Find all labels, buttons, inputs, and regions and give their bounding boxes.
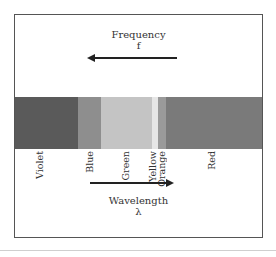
arrowhead-left-icon xyxy=(87,54,95,62)
wavelength-symbol: λ xyxy=(15,206,262,217)
band-label-red: Red xyxy=(207,151,217,170)
wavelength-title: Wavelength xyxy=(15,195,262,206)
wavelength-label: Wavelength λ xyxy=(15,195,262,217)
band-label-blue: Blue xyxy=(85,151,95,173)
band-orange xyxy=(158,97,166,149)
frequency-label: Frequency f xyxy=(15,29,262,51)
band-red xyxy=(166,97,262,149)
band-label-green: Green xyxy=(121,151,131,181)
frequency-symbol: f xyxy=(15,40,262,51)
bottom-divider xyxy=(0,250,276,251)
frequency-title: Frequency xyxy=(15,29,262,40)
wavelength-arrow-right-icon xyxy=(90,182,168,184)
band-green xyxy=(101,97,152,149)
band-blue xyxy=(78,97,101,149)
band-violet xyxy=(15,97,78,149)
spectrum-diagram-frame: Frequency f Violet Blue Green Yellow Ora… xyxy=(14,14,263,238)
band-label-violet: Violet xyxy=(35,151,45,179)
arrowhead-right-icon xyxy=(166,179,174,187)
frequency-arrow-left-icon xyxy=(93,57,177,59)
